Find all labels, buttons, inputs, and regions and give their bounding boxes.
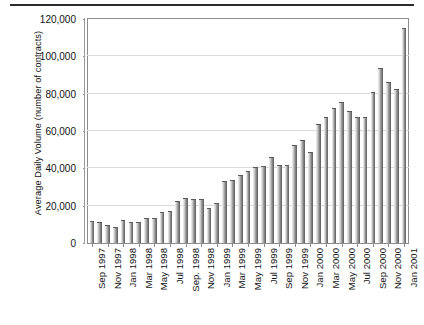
y-axis-tick-label: 120,000 <box>40 14 76 25</box>
bar <box>246 171 251 243</box>
x-axis-tick-mark <box>295 243 296 247</box>
bar <box>121 220 126 243</box>
x-axis-tick-label: Jul 1999 <box>268 248 279 284</box>
x-axis-tick-label: Nov 1999 <box>299 248 310 289</box>
bar <box>191 199 196 243</box>
y-axis-tick-label: 20,000 <box>45 200 76 211</box>
y-axis-tick-label: 0 <box>70 238 76 249</box>
x-axis-tick-label: Sep. 1998 <box>190 248 201 292</box>
x-axis-tick-mark <box>170 243 171 247</box>
x-axis-tick-mark <box>139 243 140 247</box>
x-axis-tick-mark <box>357 243 358 247</box>
chart-figure: Average Daily Volume (number of contract… <box>0 0 424 325</box>
bar <box>269 157 274 243</box>
x-axis-tick-label: May 2000 <box>346 248 357 290</box>
bar <box>136 222 141 243</box>
x-axis-tick-label: Nov 2000 <box>392 248 403 289</box>
x-axis-tick-label: Mar 2000 <box>330 248 341 289</box>
bar <box>160 212 165 243</box>
bar <box>214 203 219 243</box>
x-axis-tick-mark <box>310 243 311 247</box>
y-axis-tick-label: 80,000 <box>45 88 76 99</box>
bar <box>90 221 95 243</box>
y-axis-tick-label: 60,000 <box>45 126 76 137</box>
bar <box>238 175 243 243</box>
x-axis-tick-label: Jan 2001 <box>408 248 419 287</box>
x-axis-tick-mark <box>279 243 280 247</box>
bar <box>183 198 188 243</box>
bar <box>222 181 227 243</box>
bar <box>261 166 266 243</box>
bar <box>175 201 180 243</box>
bar <box>394 89 399 243</box>
x-axis-tick-mark <box>388 243 389 247</box>
x-axis-tick-label: Jan 1999 <box>221 248 232 287</box>
x-axis-tick-mark <box>123 243 124 247</box>
x-axis-tick-label: Jul 2000 <box>361 248 372 284</box>
x-axis-tick-mark <box>201 243 202 247</box>
bar <box>129 222 134 243</box>
x-axis-tick-label: May 1999 <box>252 248 263 290</box>
x-axis-tick-mark <box>186 243 187 247</box>
x-axis-tick-mark <box>108 243 109 247</box>
bar <box>386 82 391 243</box>
y-axis-tick-label: 40,000 <box>45 163 76 174</box>
x-axis-tick-mark <box>92 243 93 247</box>
bar <box>97 222 102 243</box>
x-axis-tick-label: Jul 1998 <box>174 248 185 284</box>
bar <box>347 111 352 243</box>
x-axis-tick-mark <box>232 243 233 247</box>
x-axis-tick-label: Nov 1997 <box>112 248 123 289</box>
x-axis-tick-mark <box>217 243 218 247</box>
bar <box>207 208 212 243</box>
bar <box>308 152 313 243</box>
bar <box>253 167 258 243</box>
bar <box>277 165 282 243</box>
y-axis-tick-labels: 020,00040,00060,00080,000100,000120,000 <box>0 0 84 325</box>
y-axis-tick-label: 100,000 <box>40 51 76 62</box>
bar <box>332 108 337 243</box>
bar <box>355 117 360 243</box>
bar <box>371 92 376 243</box>
x-axis-tick-mark <box>154 243 155 247</box>
bar <box>144 218 149 243</box>
bar <box>363 117 368 243</box>
bar <box>152 218 157 243</box>
bar <box>230 180 235 243</box>
bar <box>402 28 407 243</box>
bar <box>324 117 329 243</box>
bar <box>105 225 110 243</box>
x-axis-tick-mark <box>342 243 343 247</box>
x-axis-tick-label: Mar 1998 <box>143 248 154 289</box>
x-axis-tick-label: Sep 1999 <box>283 248 294 289</box>
x-axis-tick-label: Sep 2000 <box>377 248 388 289</box>
x-axis-tick-label: Sep 1997 <box>96 248 107 289</box>
bar <box>292 145 297 243</box>
bar <box>168 211 173 243</box>
bar <box>316 124 321 243</box>
bar <box>339 102 344 243</box>
x-axis-tick-label: Mar 1999 <box>236 248 247 289</box>
x-axis-tick-label: Jan 1998 <box>127 248 138 287</box>
x-axis-tick-mark <box>326 243 327 247</box>
x-axis-tick-labels: Sep 1997Nov 1997Jan 1998Mar 1998May 1998… <box>88 248 410 325</box>
bar <box>285 165 290 243</box>
bar <box>199 199 204 243</box>
x-axis-tick-label: May 1998 <box>158 248 169 290</box>
x-axis-tick-mark <box>373 243 374 247</box>
bar <box>113 227 118 243</box>
x-axis-tick-label: Jan 2000 <box>314 248 325 287</box>
bar <box>378 68 383 243</box>
x-axis-tick-mark <box>264 243 265 247</box>
x-axis-tick-mark <box>404 243 405 247</box>
x-axis-tick-label: Nov 1998 <box>205 248 216 289</box>
bar-series <box>88 19 408 243</box>
bar <box>300 140 305 243</box>
x-axis-tick-mark <box>248 243 249 247</box>
